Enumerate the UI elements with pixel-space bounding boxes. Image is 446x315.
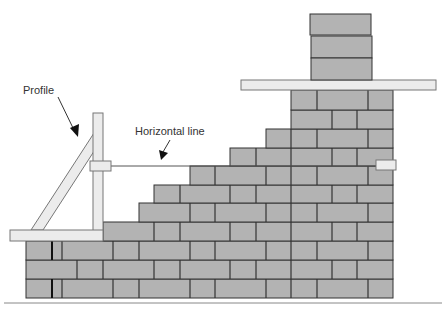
- arrow-head-icon: [70, 124, 79, 137]
- brick-course: [26, 279, 393, 298]
- brick-course: [26, 241, 393, 260]
- horizontal-line-arrow: [163, 140, 170, 152]
- brick-course: [266, 129, 393, 148]
- profile-arrow: [58, 97, 74, 130]
- profile-brace: [31, 133, 100, 230]
- brick-course: [103, 222, 393, 241]
- brick-course: [26, 260, 393, 279]
- chimney-block: [311, 58, 372, 80]
- arrow-head-icon: [159, 150, 168, 160]
- chimney-block: [310, 14, 371, 35]
- profile-base-board: [10, 230, 103, 241]
- brickwork-diagram: [0, 0, 446, 315]
- line-clamp-left: [90, 161, 111, 171]
- brick-course: [230, 148, 393, 166]
- line-peg-right: [376, 160, 396, 170]
- pier-board: [241, 80, 436, 90]
- chimney-block: [311, 36, 372, 58]
- brick-course: [291, 90, 393, 110]
- profile-post: [93, 113, 103, 231]
- brick-course: [291, 110, 393, 129]
